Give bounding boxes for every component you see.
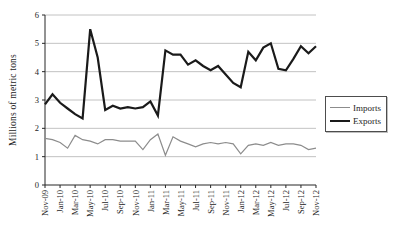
y-axis-title: Millions of metric tons [8,54,18,146]
y-tick-label: 1 [35,152,39,162]
legend-label-exports: Exports [353,116,381,126]
legend-label-imports: Imports [353,103,381,113]
x-tick-label: Mar-11 [161,190,171,215]
y-tick-label: 6 [35,10,39,20]
x-tick-label: Sep-12 [296,190,306,214]
x-tick-label: Sep-11 [206,190,216,214]
x-tick-label: Mar-10 [70,190,80,215]
y-tick-label: 4 [35,67,40,77]
x-tick-label: Nov-11 [221,190,231,216]
x-tick-label: Jan-10 [55,190,65,213]
imports-line [45,134,316,155]
x-tick-label: Jul-11 [191,190,201,211]
legend: Imports Exports [325,96,387,132]
x-tick-label: Sep-10 [115,190,125,214]
exports-line-marker [330,120,350,122]
x-tick-label: May-11 [176,190,186,217]
y-tick-label: 2 [35,123,39,133]
x-tick-label: Nov-09 [40,190,50,216]
x-tick-label: May-12 [266,190,276,217]
legend-item-imports: Imports [330,101,382,114]
chart-figure: 0123456Nov-09Jan-10Mar-10May-10Jul-10Sep… [0,0,393,234]
x-tick-label: Nov-12 [311,190,321,216]
x-tick-label: Nov-10 [131,190,141,216]
exports-line [45,29,316,118]
x-tick-label: May-10 [85,190,95,217]
y-tick-label: 5 [35,38,39,48]
x-tick-label: Jan-12 [236,190,246,213]
x-tick-label: Jan-11 [146,190,156,212]
x-tick-label: Jul-10 [100,190,110,211]
x-tick-label: Mar-12 [251,190,261,215]
imports-line-marker [330,107,350,108]
legend-item-exports: Exports [330,114,382,127]
y-tick-label: 3 [35,95,39,105]
y-tick-label: 0 [35,180,39,190]
x-tick-label: Jul-12 [281,190,291,211]
